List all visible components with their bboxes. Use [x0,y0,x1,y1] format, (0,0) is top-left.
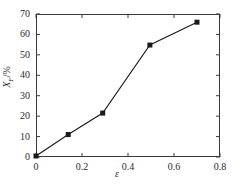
y-tick-label: 60 [0,29,30,39]
x-axis-title: ε [0,168,234,179]
data-point-marker [195,20,200,25]
x-axis-ticks [36,14,220,157]
data-point-marker [66,132,71,137]
y-tick-label: 0 [0,152,30,162]
plot-canvas [36,14,220,157]
y-axis-title-unit: /% [1,66,12,77]
y-axis-title-symbol: X [1,82,12,88]
data-series-markers [34,20,200,159]
data-point-marker [34,153,39,158]
data-series-line [36,22,197,156]
data-point-marker [100,111,105,116]
y-axis-title-subscript: F [7,77,15,81]
y-axis-title: XF/% [1,47,15,107]
y-tick-label: 20 [0,111,30,121]
y-tick-label: 70 [0,9,30,19]
y-tick-label: 10 [0,132,30,142]
data-point-marker [147,43,152,48]
chart-figure: 010203040506070 00.20.40.60.8 ε XF/% [0,0,234,185]
y-axis-ticks [36,14,220,157]
